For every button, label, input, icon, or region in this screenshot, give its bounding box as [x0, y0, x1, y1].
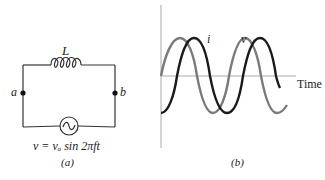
waveform-graph — [161, 5, 296, 148]
source-equation: v = vₒ sin 2πft — [33, 139, 100, 154]
node-b-label: b — [120, 85, 126, 100]
circuit-diagram — [23, 58, 115, 136]
node-a-dot — [20, 90, 25, 95]
caption-b: (b) — [231, 156, 244, 168]
inductor-label: L — [62, 43, 69, 59]
wire-bottom-left — [23, 126, 60, 127]
node-a-label: a — [11, 85, 17, 100]
curve-i-label: i — [207, 32, 210, 47]
node-b-dot — [112, 90, 117, 95]
x-axis-label: Time — [297, 77, 322, 92]
sine-wave-icon — [63, 122, 75, 129]
wire-bottom-right — [78, 126, 115, 127]
caption-a: (a) — [61, 156, 74, 168]
curve-v-label: v — [241, 32, 246, 47]
